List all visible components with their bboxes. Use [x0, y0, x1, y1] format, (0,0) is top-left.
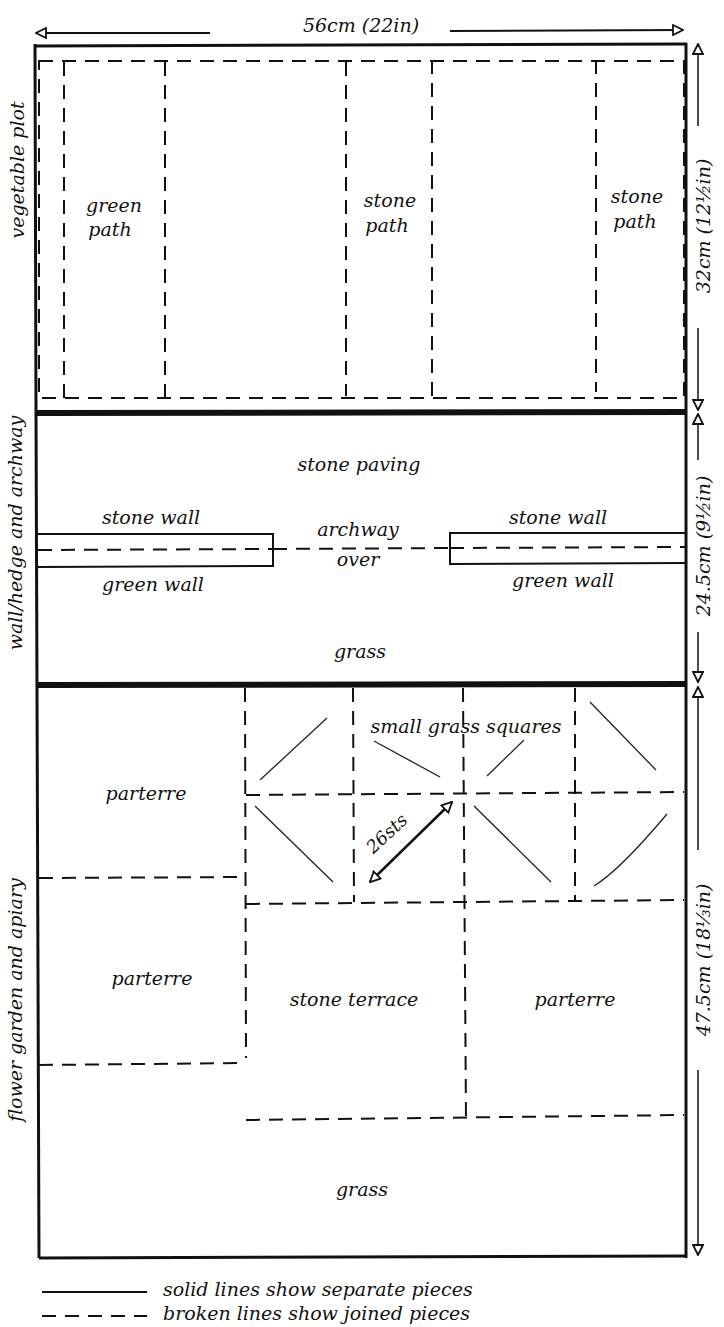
path-label-stone-1b: path [365, 214, 408, 236]
stone-paving-label: stone paving [297, 453, 420, 475]
green-wall-right-label: green wall [512, 569, 614, 591]
width-arrow-right [450, 30, 683, 31]
height-dimensions: 32cm (12½in) 24.5cm (9½in) 47.5cm (18⅓in… [692, 44, 714, 1255]
section-divider-1 [37, 412, 686, 413]
flower-garden-section: 26sts small grass squares parterre parte… [4, 688, 684, 1200]
stitch-measure-label: 26sts [361, 809, 412, 858]
width-dimension: 56cm (22in) [36, 14, 683, 36]
wall-hedge-section: stone paving stone wall green wall stone… [4, 415, 686, 662]
parterre-mid-right-label: parterre [535, 988, 616, 1010]
path-label-green-2: path [88, 218, 131, 240]
legend: solid lines show separate pieces broken … [42, 1278, 473, 1324]
vegetable-height-label: 32cm (12½in) [692, 159, 714, 294]
small-grass-squares-label: small grass squares [371, 715, 562, 737]
green-wall-left-label: green wall [102, 573, 204, 595]
legend-broken-label: broken lines show joined pieces [163, 1302, 470, 1324]
stone-terrace-label: stone terrace [290, 988, 419, 1010]
archway-label: archway [317, 518, 399, 540]
wall-height-label: 24.5cm (9½in) [692, 476, 714, 618]
wall-side-label: wall/hedge and archway [4, 415, 26, 650]
stone-wall-left-label: stone wall [102, 506, 200, 528]
section-divider-2 [38, 684, 686, 685]
parterre-mid-left-label: parterre [112, 967, 193, 989]
flower-side-label: flower garden and apiary [4, 878, 26, 1124]
over-label: over [337, 548, 381, 570]
vegetable-plot-section: green path stone path stone path vegetab… [6, 60, 684, 398]
path-label-green: green [86, 194, 142, 216]
width-label: 56cm (22in) [303, 14, 419, 36]
parterre-top-left-label: parterre [106, 782, 187, 804]
garden-layout-diagram: 56cm (22in) green path stone path stone [0, 0, 724, 1327]
vegetable-dashed-border [39, 61, 684, 398]
legend-solid-label: solid lines show separate pieces [163, 1278, 473, 1300]
flower-grass-label: grass [336, 1178, 388, 1200]
path-label-stone-2: stone [611, 185, 663, 207]
path-label-stone-2b: path [613, 210, 656, 232]
flower-height-label: 47.5cm (18⅓in) [692, 884, 714, 1038]
vegetable-side-label: vegetable plot [6, 101, 28, 239]
path-label-stone-1: stone [364, 189, 416, 211]
stone-wall-right-label: stone wall [509, 506, 607, 528]
wall-grass-label: grass [334, 640, 386, 662]
